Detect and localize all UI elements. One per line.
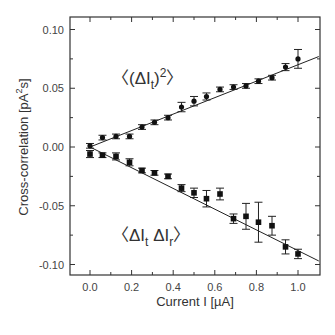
data-point — [230, 214, 238, 223]
data-point — [268, 216, 276, 235]
data-point — [202, 93, 210, 100]
chart: 0.00.20.40.60.81.0 -0.10-0.050.000.050.1… — [0, 0, 335, 335]
y-tick-label: 0.05 — [43, 82, 64, 94]
y-tick-label: 0.10 — [43, 24, 64, 36]
x-axis-label: Current I [µA] — [156, 294, 234, 309]
data-point — [216, 188, 224, 200]
data-point — [164, 174, 172, 180]
y-tick-label: -0.10 — [39, 259, 64, 271]
y-tick-label: 0.00 — [43, 141, 64, 153]
data-point — [86, 151, 94, 158]
x-tick-label: 0.8 — [249, 281, 264, 293]
x-tick-label: 0.2 — [124, 281, 139, 293]
y-tick-label: -0.05 — [39, 200, 64, 212]
data-point — [242, 203, 250, 229]
data-point — [190, 188, 198, 197]
data-point — [126, 159, 134, 166]
data-point — [98, 152, 106, 158]
data-point — [254, 202, 262, 242]
data-point — [216, 87, 224, 92]
data-point — [150, 170, 158, 176]
data-point — [178, 102, 186, 111]
data-point — [202, 190, 210, 206]
data-point — [112, 153, 120, 160]
x-tick-label: 0.6 — [207, 281, 222, 293]
data-point — [98, 135, 106, 140]
plot-area-border — [70, 17, 320, 275]
annotation-autocorrelation: 〈(ΔIt)2〉 — [112, 66, 183, 92]
x-tick-label: 0.4 — [166, 281, 181, 293]
data-point — [126, 134, 134, 139]
data-point — [178, 185, 186, 192]
plot-frame — [70, 17, 320, 275]
data-point — [138, 168, 146, 174]
data-point — [294, 249, 302, 258]
x-tick-label: 0.0 — [82, 281, 97, 293]
annotation-crosscorrelation: 〈ΔIt ΔIr〉 — [112, 226, 190, 249]
y-axis-label: Cross-correlation [pA2s] — [14, 78, 31, 215]
data-point — [282, 64, 290, 71]
x-tick-label: 1.0 — [290, 281, 305, 293]
data-point — [282, 240, 290, 254]
